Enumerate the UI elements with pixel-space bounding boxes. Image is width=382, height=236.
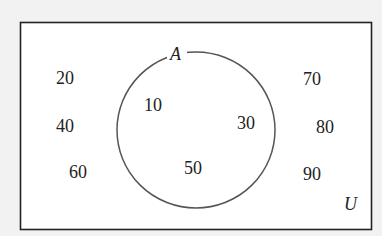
element-outside-5: 80 [316,117,334,137]
element-outside-4: 70 [303,69,321,89]
element-outside-2: 40 [56,116,74,136]
element-outside-3: 60 [69,162,87,182]
element-outside-1: 20 [56,68,74,88]
element-a-1: 10 [144,95,162,115]
universe-label: U [344,194,358,214]
set-a-label: A [169,44,182,64]
element-a-3: 50 [184,158,202,178]
element-outside-6: 90 [303,164,321,184]
element-a-2: 30 [237,113,255,133]
venn-diagram: A 10 30 50 20 40 60 70 80 90 U [0,0,382,236]
